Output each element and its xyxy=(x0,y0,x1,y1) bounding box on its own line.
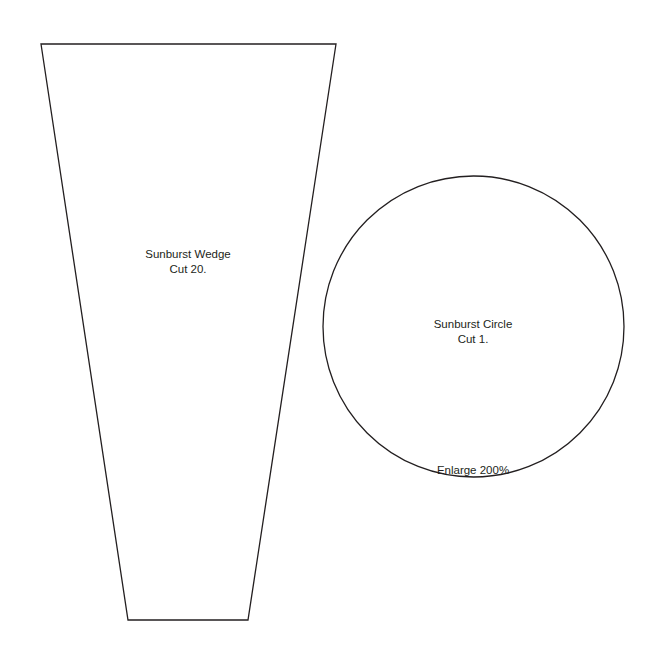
wedge-cut-instruction: Cut 20. xyxy=(169,263,206,275)
pattern-sheet: Sunburst Wedge Cut 20. Sunburst Circle C… xyxy=(0,0,666,658)
wedge-name-label: Sunburst Wedge xyxy=(145,248,230,260)
circle-cut-instruction: Cut 1. xyxy=(458,333,489,345)
wedge-outline xyxy=(41,44,336,620)
sunburst-wedge-piece: Sunburst Wedge Cut 20. xyxy=(41,44,336,620)
circle-name-label: Sunburst Circle xyxy=(434,318,513,330)
enlarge-note: Enlarge 200% xyxy=(437,464,509,476)
sunburst-circle-piece: Sunburst Circle Cut 1. Enlarge 200% xyxy=(323,176,624,477)
